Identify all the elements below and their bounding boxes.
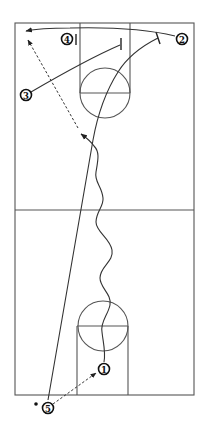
player-2-label: 2 [179, 35, 185, 45]
player-3-label: 3 [23, 91, 29, 101]
player-1: 1 [99, 364, 110, 375]
player-5: 5 [43, 403, 54, 414]
pass-to-corner-line [28, 40, 78, 128]
player-4: 4 [62, 34, 73, 45]
bottom-key [77, 301, 128, 395]
court-outline [15, 23, 194, 395]
ball-marker [34, 402, 38, 406]
player-2-cut-path [26, 28, 175, 36]
player-3: 3 [21, 90, 32, 101]
screen-mark-5 [156, 32, 160, 44]
player-5-label: 5 [45, 404, 51, 414]
dribble-path [81, 134, 112, 362]
player-4-label: 4 [64, 35, 70, 45]
player-1-label: 1 [101, 365, 107, 375]
court [15, 23, 194, 395]
play-diagram: 1 2 3 4 5 [0, 0, 207, 440]
player-2: 2 [177, 34, 188, 45]
actions [26, 28, 175, 404]
inbound-pass-line [53, 373, 96, 404]
player-5-cut-path [48, 38, 158, 400]
top-key [80, 23, 130, 118]
